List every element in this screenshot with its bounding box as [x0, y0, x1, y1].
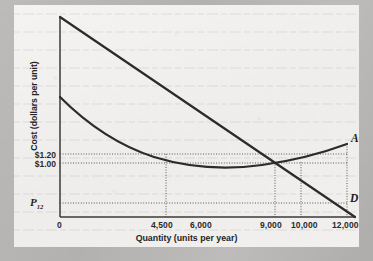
x-tick-label-12000: 12,000: [332, 220, 359, 230]
curve-label-d: D: [350, 192, 358, 204]
y-axis-title: Cost (dollars per unit): [29, 41, 39, 171]
p12-base: P: [30, 196, 37, 208]
x-tick-label-0: 0: [57, 220, 62, 230]
figure-container: $1.20 $1.00 P12 0 4,500 6,000 9,000 10,0…: [0, 0, 373, 261]
x-tick-label-10000: 10,000: [291, 220, 318, 230]
demand-curve: [60, 17, 355, 217]
x-tick-label-4500: 4,500: [151, 220, 173, 230]
curve-label-ac: AC: [351, 132, 359, 144]
p12-subscript: 12: [37, 203, 44, 210]
average-cost-curve: [60, 97, 347, 168]
y-tick-label-p12: P12: [30, 196, 43, 210]
x-tick-label-9000: 9,000: [260, 220, 282, 230]
x-axis-title: Quantity (units per year): [14, 233, 359, 243]
x-tick-label-6000: 6,000: [190, 220, 212, 230]
guide-lines: [60, 144, 347, 217]
chart-panel: $1.20 $1.00 P12 0 4,500 6,000 9,000 10,0…: [14, 5, 359, 247]
plot-area: [14, 5, 359, 247]
